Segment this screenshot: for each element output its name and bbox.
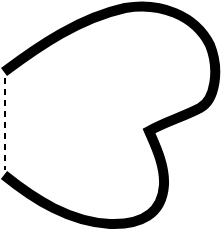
heart-outline bbox=[4, 7, 215, 224]
half-heart-diagram bbox=[0, 0, 224, 231]
